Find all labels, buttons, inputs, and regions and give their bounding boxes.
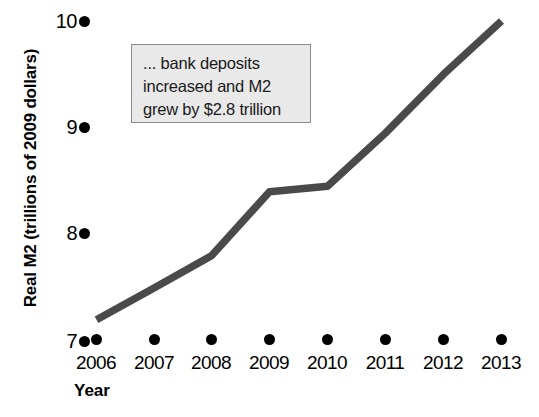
annotation-line-3: grew by $2.8 trillion — [143, 98, 300, 121]
annotation-line-2: increased and M2 — [143, 75, 300, 98]
chart-figure: Real M2 (trillions of 2009 dollars) 10 9… — [0, 0, 539, 417]
annotation-line-1: ... bank deposits — [143, 52, 300, 75]
annotation-callout: ... bank deposits increased and M2 grew … — [131, 44, 311, 123]
